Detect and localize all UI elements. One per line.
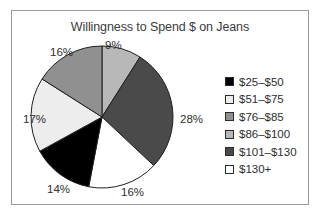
legend-item: $86–$100 (225, 126, 311, 144)
pie-slices (31, 46, 173, 188)
pie-label-bottom-right: 16% (121, 186, 144, 198)
legend-item: $51–$75 (225, 91, 311, 109)
chart-legend: $25–$50$51–$75$76–$85$86–$100$101–$130$1… (225, 73, 311, 178)
legend-swatch-icon (225, 112, 234, 121)
pie-label-bottom-left: 14% (47, 183, 70, 195)
legend-swatch-icon (225, 147, 234, 156)
pie-chart: 9% 28% 16% 14% 17% 16% (20, 37, 216, 203)
legend-swatch-icon (225, 165, 234, 174)
legend-item: $130+ (225, 161, 311, 179)
legend-swatch-icon (225, 77, 234, 86)
chart-title: Willingness to Spend $ on Jeans (12, 20, 308, 34)
legend-item-label: $76–$85 (239, 111, 284, 123)
legend-item-label: $86–$100 (239, 128, 290, 140)
legend-item: $25–$50 (225, 73, 311, 91)
legend-item-label: $101–$130 (239, 146, 297, 158)
pie-label-left: 17% (23, 113, 46, 125)
legend-item-label: $51–$75 (239, 93, 284, 105)
legend-swatch-icon (225, 95, 234, 104)
legend-item-label: $130+ (239, 163, 271, 175)
legend-item: $76–$85 (225, 108, 311, 126)
pie-label-right: 28% (180, 113, 203, 125)
pie-label-top: 9% (105, 39, 122, 51)
legend-item-label: $25–$50 (239, 76, 284, 88)
pie-label-top-left: 16% (50, 46, 73, 58)
chart-frame: Willingness to Spend $ on Jeans 9% 28% 1… (11, 10, 309, 205)
legend-item: $101–$130 (225, 143, 311, 161)
legend-swatch-icon (225, 130, 234, 139)
